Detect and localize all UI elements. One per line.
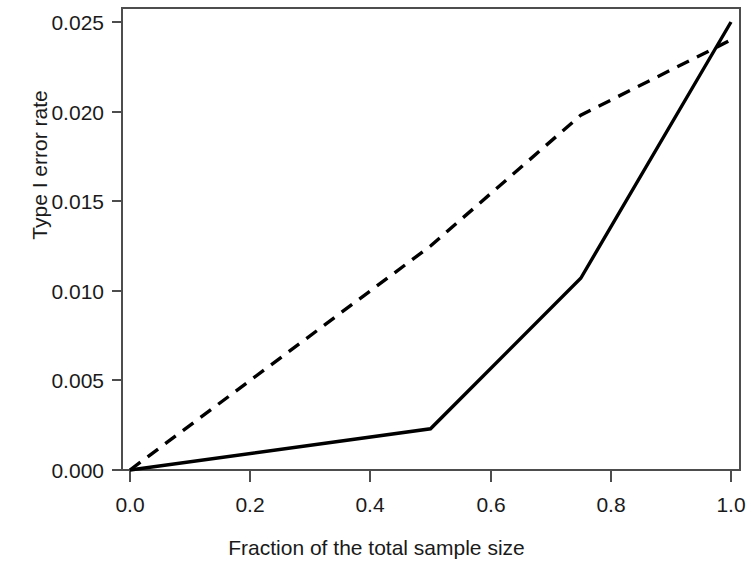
x-tick-marks — [130, 470, 731, 482]
x-tick-label-1: 0.2 — [235, 494, 264, 515]
series-line-dashed — [130, 40, 731, 470]
y-tick-label-5: 0.025 — [0, 12, 104, 33]
y-tick-label-0: 0.000 — [0, 460, 104, 481]
y-tick-label-2: 0.010 — [0, 281, 104, 302]
plot-area — [0, 0, 753, 574]
plot-box — [122, 8, 740, 470]
x-tick-label-2: 0.4 — [355, 494, 384, 515]
chart-figure: 0.025 0.020 0.015 0.010 0.005 0.000 0.0 … — [0, 0, 753, 574]
x-tick-label-3: 0.6 — [476, 494, 505, 515]
y-tick-marks — [112, 22, 122, 470]
y-tick-label-1: 0.005 — [0, 370, 104, 391]
x-tick-label-0: 0.0 — [115, 494, 144, 515]
y-tick-label-4: 0.020 — [0, 102, 104, 123]
x-tick-label-5: 1.0 — [716, 494, 745, 515]
y-tick-label-3: 0.015 — [0, 191, 104, 212]
x-tick-label-4: 0.8 — [596, 494, 625, 515]
x-axis-title: Fraction of the total sample size — [0, 536, 753, 560]
